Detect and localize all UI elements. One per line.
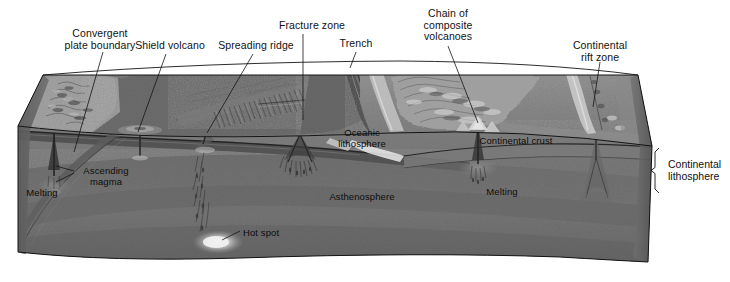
callout-chain-of-composite-volcanoes: Chain of composite volcanoes xyxy=(414,8,482,43)
continental-lithosphere-bracket xyxy=(651,148,659,193)
callout-shield-volcano: Shield volcano xyxy=(128,40,212,52)
callout-trench: Trench xyxy=(333,38,379,50)
label-ascending-magma: Ascending magma xyxy=(77,166,135,187)
label-asthenosphere: Asthenosphere xyxy=(323,192,401,203)
block-diagram-figure: Convergent plate boundaryShield volcanoS… xyxy=(0,0,730,282)
callout-continental-rift-zone: Continental rift zone xyxy=(566,40,634,63)
leader-line-trench xyxy=(350,52,356,68)
continental-lithosphere-label: Continental lithosphere xyxy=(668,158,721,182)
callout-spreading-ridge: Spreading ridge xyxy=(212,40,300,52)
label-oceanic-lithosphere: Oceanic lithosphere xyxy=(330,128,394,149)
label-hot-spot: Hot spot xyxy=(243,228,291,239)
label-melting-right: Melting xyxy=(482,187,522,198)
bracket-path xyxy=(651,148,659,193)
label-melting-left: Melting xyxy=(22,188,62,199)
label-continental-crust: Continental crust xyxy=(472,136,560,147)
callout-fracture-zone: Fracture zone xyxy=(272,20,352,32)
